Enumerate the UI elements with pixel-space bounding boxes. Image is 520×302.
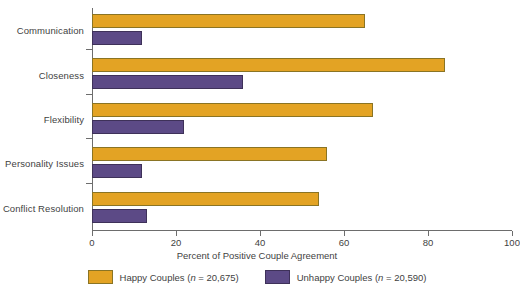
x-tick <box>92 231 93 236</box>
category-group-flexibility: Flexibility <box>92 97 512 141</box>
chart-legend: Happy Couples (n = 20,675) Unhappy Coupl… <box>0 270 514 284</box>
bar-happy <box>92 14 365 28</box>
x-tick-label: 100 <box>504 237 520 248</box>
y-tick <box>86 94 92 95</box>
bar-happy <box>92 103 373 117</box>
category-label: Conflict Resolution <box>3 202 84 213</box>
category-label: Personality Issues <box>5 158 84 169</box>
category-group-closeness: Closeness <box>92 52 512 96</box>
category-label: Communication <box>17 25 84 36</box>
x-tick-label: 0 <box>89 237 94 248</box>
plot-area: Communication Closeness Flexibility Pers… <box>92 8 512 230</box>
category-group-conflict-resolution: Conflict Resolution <box>92 186 512 230</box>
legend-swatch-happy-icon <box>88 270 113 284</box>
x-tick-label: 20 <box>171 237 182 248</box>
x-tick <box>344 231 345 236</box>
legend-item-happy-couples: Happy Couples (n = 20,675) <box>88 270 239 284</box>
x-axis-line <box>92 230 512 231</box>
y-tick <box>86 49 92 50</box>
category-label: Closeness <box>39 69 84 80</box>
x-tick-label: 40 <box>255 237 266 248</box>
bar-unhappy <box>92 120 184 134</box>
legend-label-unhappy: Unhappy Couples (n = 20,590) <box>297 272 427 283</box>
x-tick <box>176 231 177 236</box>
x-tick <box>260 231 261 236</box>
bar-unhappy <box>92 209 147 223</box>
x-tick-label: 80 <box>423 237 434 248</box>
x-tick <box>512 231 513 236</box>
bar-happy <box>92 192 319 206</box>
y-tick <box>86 183 92 184</box>
legend-swatch-unhappy-icon <box>265 270 290 284</box>
x-tick <box>428 231 429 236</box>
category-label: Flexibility <box>44 113 84 124</box>
x-tick-label: 60 <box>339 237 350 248</box>
y-tick <box>86 138 92 139</box>
bar-unhappy <box>92 164 142 178</box>
legend-label-happy: Happy Couples (n = 20,675) <box>120 272 239 283</box>
category-group-communication: Communication <box>92 8 512 52</box>
category-group-personality-issues: Personality Issues <box>92 141 512 185</box>
bar-unhappy <box>92 31 142 45</box>
x-axis-title: Percent of Positive Couple Agreement <box>0 250 514 261</box>
bar-unhappy <box>92 75 243 89</box>
bar-happy <box>92 58 445 72</box>
legend-item-unhappy-couples: Unhappy Couples (n = 20,590) <box>265 270 427 284</box>
bar-happy <box>92 147 327 161</box>
